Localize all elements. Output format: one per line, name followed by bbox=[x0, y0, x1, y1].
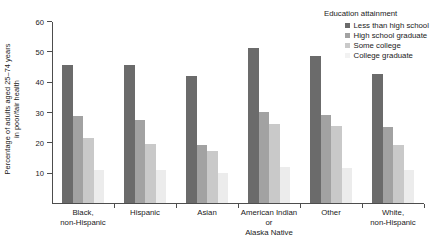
bar bbox=[321, 115, 332, 203]
y-axis-tick-label: 10 bbox=[36, 169, 44, 178]
legend-item: High school graduate bbox=[345, 31, 448, 41]
y-axis-tick: 20 bbox=[47, 142, 52, 143]
y-axis-title-line1: Percentage of adults aged 25–74 years bbox=[3, 44, 12, 175]
y-axis-tick-label: 50 bbox=[36, 47, 44, 56]
bar bbox=[218, 173, 229, 203]
legend-swatch bbox=[345, 53, 350, 58]
x-axis-category-label-line: Alaska Native bbox=[241, 228, 297, 238]
bar bbox=[83, 138, 94, 203]
x-axis-category-label-line: non-Hispanic bbox=[370, 218, 416, 228]
x-axis-category-label-line: Black, bbox=[60, 208, 106, 218]
legend-swatch bbox=[345, 43, 350, 48]
legend-items: Less than high schoolHigh school graduat… bbox=[323, 21, 448, 61]
x-axis-category-label: Asian bbox=[197, 208, 217, 218]
x-axis-tick bbox=[424, 204, 425, 208]
y-axis-tick-label: 30 bbox=[36, 108, 44, 117]
bar bbox=[207, 151, 218, 203]
bar bbox=[280, 167, 291, 203]
bar bbox=[62, 65, 73, 203]
x-axis-tick bbox=[300, 204, 301, 208]
legend-swatch bbox=[345, 23, 350, 28]
y-axis-tick: 10 bbox=[47, 173, 52, 174]
y-axis-tick-label: 40 bbox=[36, 78, 44, 87]
x-axis-category-label-line: non-Hispanic bbox=[60, 218, 106, 228]
bar bbox=[310, 56, 321, 203]
x-axis-category-label-line: or bbox=[241, 218, 297, 228]
y-axis-tick: 30 bbox=[47, 112, 52, 113]
bar bbox=[269, 124, 280, 203]
x-axis-category-label: White,non-Hispanic bbox=[370, 208, 416, 228]
x-axis-tick bbox=[362, 204, 363, 208]
x-axis-tick bbox=[114, 204, 115, 208]
bar bbox=[156, 170, 167, 203]
y-axis-tick: 60 bbox=[47, 21, 52, 22]
bar-chart: Percentage of adults aged 25–74 years in… bbox=[0, 0, 448, 249]
y-axis-tick-label: 60 bbox=[36, 17, 44, 26]
bar bbox=[404, 170, 415, 203]
x-axis-category-label-line: Hispanic bbox=[130, 208, 160, 218]
bar bbox=[248, 48, 259, 203]
bar bbox=[186, 76, 197, 203]
y-axis-tick: 40 bbox=[47, 82, 52, 83]
y-axis-line bbox=[52, 22, 53, 204]
bar bbox=[73, 116, 84, 203]
x-axis-tick bbox=[176, 204, 177, 208]
legend: Education attainment Less than high scho… bbox=[323, 9, 448, 61]
legend-label: Some college bbox=[354, 41, 401, 50]
x-axis-category-label-line: Other bbox=[321, 208, 341, 218]
x-axis-category-label-line: Asian bbox=[197, 208, 217, 218]
legend-item: Some college bbox=[345, 41, 448, 51]
legend-label: College graduate bbox=[354, 51, 413, 60]
x-axis-category-label: Black,non-Hispanic bbox=[60, 208, 106, 228]
bar bbox=[342, 168, 353, 203]
x-axis-tick bbox=[238, 204, 239, 208]
bar bbox=[135, 120, 146, 203]
legend-swatch bbox=[345, 33, 350, 38]
x-axis-category-label: Hispanic bbox=[130, 208, 160, 218]
legend-item: Less than high school bbox=[345, 21, 448, 31]
bar bbox=[197, 145, 208, 203]
y-axis-tick: 50 bbox=[47, 51, 52, 52]
y-axis-title-line2: in poor/fair health bbox=[12, 44, 21, 175]
bar bbox=[393, 145, 404, 203]
legend-title: Education attainment bbox=[324, 9, 448, 18]
bar bbox=[331, 126, 342, 203]
bar bbox=[94, 170, 105, 203]
x-axis-category-label: American IndianorAlaska Native bbox=[241, 208, 297, 238]
x-axis-category-label-line: White, bbox=[370, 208, 416, 218]
bar bbox=[145, 144, 156, 203]
bar bbox=[124, 65, 135, 203]
legend-label: High school graduate bbox=[354, 31, 428, 40]
x-axis-category-label-line: American Indian bbox=[241, 208, 297, 218]
bar bbox=[383, 127, 394, 203]
bar bbox=[372, 74, 383, 203]
legend-item: College graduate bbox=[345, 51, 448, 61]
x-axis-category-label: Other bbox=[321, 208, 341, 218]
y-axis-tick-label: 20 bbox=[36, 138, 44, 147]
legend-label: Less than high school bbox=[354, 21, 429, 30]
y-axis-title: Percentage of adults aged 25–74 years in… bbox=[2, 20, 22, 198]
bar bbox=[259, 112, 270, 203]
